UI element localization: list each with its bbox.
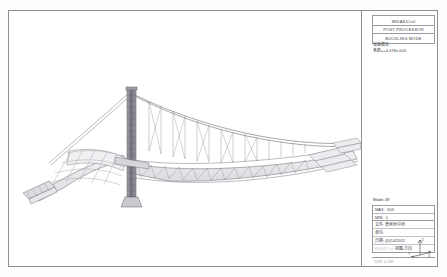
axis-triad-icon: Z X Y [407, 237, 433, 259]
vendor-line-2: POST-PROCESSOR [373, 25, 434, 33]
hanger-group [149, 101, 305, 163]
pylon-group [121, 87, 142, 207]
legend-panel: MIDAS/Civil POST-PROCESSOR BUCKLING MODE… [361, 11, 437, 266]
main-cable-group [131, 93, 355, 147]
vendor-line-1: MIDAS/Civil [373, 18, 434, 25]
panel-divider [372, 257, 435, 258]
mode-label: Mode 49 [373, 197, 435, 202]
bridge-model-svg [9, 11, 361, 266]
max-value: MAX : 103 [373, 206, 434, 213]
file-row: 文件: 悬索桥中桥 [373, 221, 434, 228]
unit-row: 单位: [373, 228, 434, 236]
scale-note: 比例: 0.289 [374, 260, 394, 265]
buckling-factor: 系数=+4.478e-003 [373, 47, 435, 53]
axis-label-z: Z [422, 238, 425, 242]
screenshot-root: MIDAS/Civil POST-PROCESSOR BUCKLING MODE… [0, 0, 447, 277]
sub-info-block: 屈曲模态 系数=+4.478e-003 [373, 41, 435, 54]
axis-label-y: Y [408, 252, 411, 256]
model-viewport[interactable] [9, 11, 361, 266]
